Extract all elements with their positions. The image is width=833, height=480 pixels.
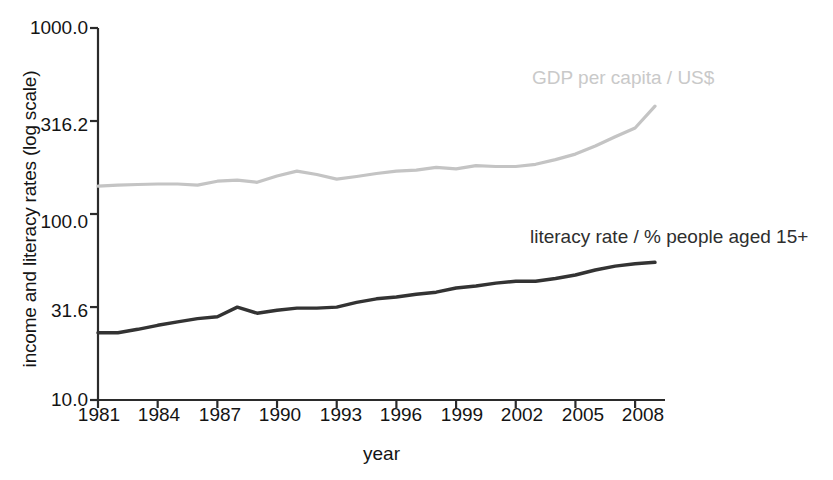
y-tick-label: 316.2 (4, 114, 88, 136)
x-tick-label: 2005 (562, 404, 604, 426)
series-line-gdp (98, 106, 655, 186)
series-annotation-literacy: literacy rate / % people aged 15+ (530, 226, 808, 248)
series-annotation-gdp: GDP per capita / US$ (532, 67, 714, 89)
y-tick-label: 31.6 (4, 300, 88, 322)
y-tick-label-group: 1000.0 316.2 100.0 31.6 10.0 (0, 0, 88, 480)
x-tick-label: 1999 (441, 404, 483, 426)
chart-container: income and literacy rates (log scale) 10… (0, 0, 833, 480)
x-tick-label: 1993 (320, 404, 362, 426)
x-tick-label: 2002 (501, 404, 543, 426)
y-tick-label: 10.0 (4, 389, 88, 411)
y-tick-label: 100.0 (4, 211, 88, 233)
x-tick-label: 1990 (259, 404, 301, 426)
x-tick-label: 1981 (78, 404, 120, 426)
x-tick-label: 2008 (622, 404, 664, 426)
x-axis-title: year (98, 443, 665, 465)
y-tick-marks (90, 28, 98, 400)
x-tick-label: 1996 (380, 404, 422, 426)
series-line-literacy (98, 262, 655, 332)
x-tick-label: 1987 (199, 404, 241, 426)
x-tick-label: 1984 (138, 404, 180, 426)
y-tick-label: 1000.0 (4, 17, 88, 39)
